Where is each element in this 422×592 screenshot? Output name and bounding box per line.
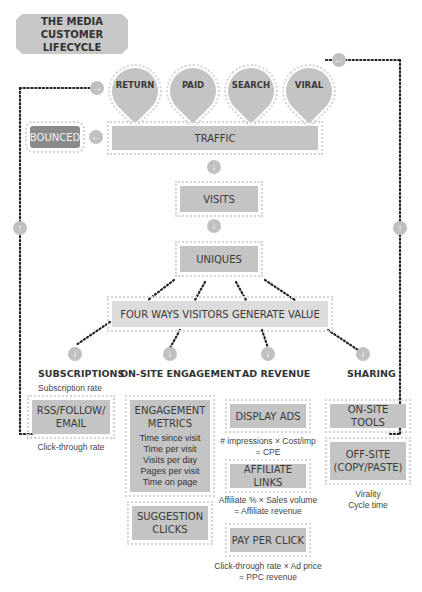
ppc-note: Click-through rate × Ad price = PPC reve…: [210, 561, 326, 583]
suggestion-clicks-box: SUGGESTION CLICKS: [132, 506, 208, 540]
engagement-metrics-box: ENGAGEMENT METRICS Time since visit Time…: [130, 400, 210, 492]
arrow-down-icon: ↓: [356, 347, 370, 361]
pay-per-click-box: PAY PER CLICK: [230, 528, 306, 552]
arrow-right-icon: →: [90, 81, 104, 95]
note-line-1: Virality: [330, 489, 406, 500]
uniques-box: UNIQUES: [180, 246, 258, 272]
category-engagement: ON-SITE ENGAGEMENT: [120, 368, 241, 379]
pin-label: PAID: [164, 80, 222, 90]
metric-item: Time on page: [135, 477, 206, 488]
title-line-1: THE MEDIA: [16, 15, 128, 28]
box-line-1: OFF-SITE: [334, 448, 403, 461]
note-line-1: Click-through rate × Ad price: [210, 561, 326, 572]
source-pin-search: SEARCH: [228, 64, 274, 122]
metric-item: Time since visit: [135, 433, 206, 444]
sharing-note: Virality Cycle time: [330, 489, 406, 511]
arrow-up-icon: ↑: [393, 221, 407, 235]
box-line-2: EMAIL: [37, 417, 106, 430]
arrow-down-icon: ↓: [207, 160, 221, 174]
box-line-1: SUGGESTION: [137, 510, 203, 523]
arrow-down-icon: ↓: [261, 347, 275, 361]
note-line-1: Affiliate % × Sales volume: [212, 495, 324, 506]
metric-item: Pages per visit: [135, 466, 206, 477]
arrow-left-icon: ←: [89, 130, 103, 144]
box-line-2: METRICS: [135, 417, 206, 430]
note-line-1: # impressions × Cost/imp: [218, 436, 318, 447]
box-line-2: (COPY/PASTE): [334, 461, 403, 474]
affiliate-links-box: AFFILIATE LINKS: [230, 464, 306, 488]
pin-label: RETURN: [106, 80, 164, 90]
box-line-1: RSS/FOLLOW/: [37, 404, 106, 417]
arrow-up-icon: ↑: [13, 221, 27, 235]
source-pin-paid: PAID: [170, 64, 216, 122]
category-subscriptions: SUBSCRIPTIONS: [38, 368, 124, 379]
arrow-left-icon: ←: [332, 53, 346, 67]
pin-shape: [276, 58, 341, 123]
bounced-label: BOUNCED: [30, 131, 80, 144]
on-site-tools-label: ON-SITE TOOLS: [330, 403, 406, 429]
diagram-title: THE MEDIA CUSTOMER LIFECYCLE: [16, 14, 128, 54]
category-ad-revenue: AD REVENUE: [242, 368, 310, 379]
affiliate-links-label: AFFILIATE LINKS: [230, 463, 306, 489]
pin-shape: [160, 58, 225, 123]
title-line-2: CUSTOMER LIFECYCLE: [16, 28, 128, 54]
pin-shape: [218, 58, 283, 123]
on-site-tools-box: ON-SITE TOOLS: [330, 404, 406, 428]
off-site-box: OFF-SITE (COPY/PASTE): [330, 442, 406, 480]
metric-item: Visits per day: [135, 455, 206, 466]
note-line-2: Cycle time: [330, 500, 406, 511]
display-ads-label: DISPLAY ADS: [235, 410, 300, 423]
pin-shape: [102, 58, 167, 123]
value-box: FOUR WAYS VISITORS GENERATE VALUE: [112, 301, 328, 327]
metric-item: Time per visit: [135, 444, 206, 455]
arrow-down-icon: ↓: [207, 219, 221, 233]
bounced-box: BOUNCED: [30, 126, 80, 148]
display-ads-note: # impressions × Cost/imp = CPE: [218, 436, 318, 458]
source-pin-viral: VIRAL: [286, 64, 332, 122]
source-pin-return: RETURN: [112, 64, 158, 122]
subscription-rate-note: Subscription rate: [30, 383, 110, 394]
note-line-2: = Affiliate revenue: [212, 506, 324, 517]
value-label: FOUR WAYS VISITORS GENERATE VALUE: [120, 308, 319, 321]
rss-follow-email-box: RSS/FOLLOW/ EMAIL: [32, 400, 110, 434]
click-through-note: Click-through rate: [26, 442, 116, 453]
note-line-2: = CPE: [218, 447, 318, 458]
box-line-2: CLICKS: [137, 523, 203, 536]
note-line-2: = PPC revenue: [210, 572, 326, 583]
display-ads-box: DISPLAY ADS: [230, 404, 306, 428]
traffic-label: TRAFFIC: [195, 132, 236, 145]
pin-label: SEARCH: [222, 80, 280, 90]
arrow-down-icon: ↓: [68, 347, 82, 361]
pin-label: VIRAL: [280, 80, 338, 90]
category-sharing: SHARING: [347, 368, 396, 379]
pay-per-click-label: PAY PER CLICK: [232, 534, 304, 547]
visits-box: VISITS: [180, 186, 258, 212]
box-line-1: ENGAGEMENT: [135, 404, 206, 417]
visits-label: VISITS: [203, 193, 235, 206]
affiliate-note: Affiliate % × Sales volume = Affiliate r…: [212, 495, 324, 517]
traffic-box: TRAFFIC: [112, 126, 318, 150]
arrow-down-icon: ↓: [163, 347, 177, 361]
uniques-label: UNIQUES: [196, 253, 242, 266]
